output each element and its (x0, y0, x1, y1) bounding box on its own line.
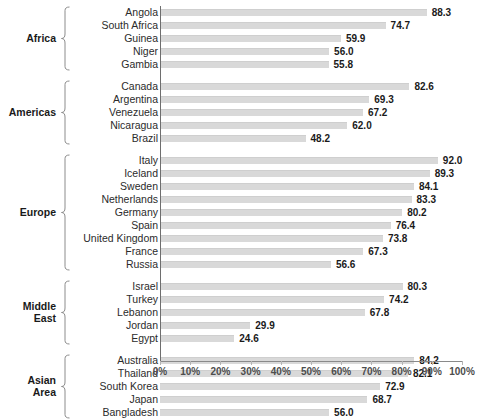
bar-row: South Korea72.9 (0, 380, 485, 393)
bar-value-label: 82.6 (414, 80, 433, 93)
bar-track: 74.2 (160, 293, 462, 306)
x-tick-label: 40% (271, 366, 291, 377)
bar (160, 183, 414, 190)
region-group: AsianAreaAustralia84.2Thailand82.1South … (0, 354, 485, 419)
region-group: EuropeItaly92.0Iceland89.3Sweden84.1Neth… (0, 154, 485, 271)
bar-row: Germany80.2 (0, 206, 485, 219)
bar (160, 170, 430, 177)
bar-track: 67.8 (160, 306, 462, 319)
x-tick-label: 70% (361, 366, 381, 377)
bar-track: 62.0 (160, 119, 462, 132)
category-label: Niger (74, 45, 158, 58)
y-axis-line (160, 6, 161, 361)
x-tick-mark (371, 361, 372, 365)
bar-row: Guinea59.9 (0, 32, 485, 45)
bar (160, 196, 412, 203)
bar (160, 209, 402, 216)
x-tick-label: 90% (422, 366, 442, 377)
bar (160, 335, 234, 342)
bar-row: Sweden84.1 (0, 180, 485, 193)
bar-row: Angola88.3 (0, 6, 485, 19)
bar-row: France67.3 (0, 245, 485, 258)
bar (160, 96, 369, 103)
x-tick-label: 50% (301, 366, 321, 377)
x-tick-mark (462, 361, 463, 365)
bar-value-label: 67.8 (370, 306, 389, 319)
category-label: Israel (74, 280, 158, 293)
bar-row: South Africa74.7 (0, 19, 485, 32)
category-label: Germany (74, 206, 158, 219)
bar-value-label: 67.3 (368, 245, 387, 258)
bar-track: 24.6 (160, 332, 462, 345)
bar-track: 56.0 (160, 406, 462, 419)
bar-row: United Kingdom73.8 (0, 232, 485, 245)
bar (160, 296, 384, 303)
bar (160, 109, 363, 116)
bar (160, 283, 403, 290)
bar-track: 82.6 (160, 80, 462, 93)
bar-track: 68.7 (160, 393, 462, 406)
category-label: Netherlands (74, 193, 158, 206)
bar-value-label: 76.4 (396, 219, 415, 232)
bar-value-label: 56.6 (336, 258, 355, 271)
x-tick-mark (281, 361, 282, 365)
category-label: Iceland (74, 167, 158, 180)
bar-value-label: 72.9 (385, 380, 404, 393)
bar (160, 9, 427, 16)
x-tick-mark (190, 361, 191, 365)
bar (160, 135, 306, 142)
x-tick-mark (432, 361, 433, 365)
bar-track: 84.1 (160, 180, 462, 193)
category-label: France (74, 245, 158, 258)
bar-row: Italy92.0 (0, 154, 485, 167)
bar-row: Gambia55.8 (0, 58, 485, 71)
bar-row: Nicaragua62.0 (0, 119, 485, 132)
bar-track: 88.3 (160, 6, 462, 19)
bar-track: 69.3 (160, 93, 462, 106)
bar (160, 22, 386, 29)
category-label: Venezuela (74, 106, 158, 119)
x-tick-label: 30% (241, 366, 261, 377)
bar-value-label: 68.7 (372, 393, 391, 406)
category-label: South Africa (74, 19, 158, 32)
bar-track: 48.2 (160, 132, 462, 145)
bar-track: 56.0 (160, 45, 462, 58)
bar-row: Egypt24.6 (0, 332, 485, 345)
bar-value-label: 62.0 (352, 119, 371, 132)
bar (160, 35, 341, 42)
x-tick-mark (251, 361, 252, 365)
bar (160, 309, 365, 316)
bar-value-label: 48.2 (311, 132, 330, 145)
category-label: Bangladesh (74, 406, 158, 419)
bar-value-label: 74.2 (389, 293, 408, 306)
bar (160, 322, 250, 329)
bar-value-label: 67.2 (368, 106, 387, 119)
bar-value-label: 74.7 (391, 19, 410, 32)
bar-track: 92.0 (160, 154, 462, 167)
bar (160, 157, 438, 164)
bar (160, 383, 380, 390)
x-tick-mark (311, 361, 312, 365)
category-label: Turkey (74, 293, 158, 306)
bar-value-label: 56.0 (334, 406, 353, 419)
bar-track: 55.8 (160, 58, 462, 71)
bar-row: Russia56.6 (0, 258, 485, 271)
bar-value-label: 59.9 (346, 32, 365, 45)
category-label: Spain (74, 219, 158, 232)
bar-value-label: 80.2 (407, 206, 426, 219)
category-label: Angola (74, 6, 158, 19)
bar-track: 76.4 (160, 219, 462, 232)
bar-row: Brazil48.2 (0, 132, 485, 145)
bar-track: 80.2 (160, 206, 462, 219)
bar-value-label: 55.8 (334, 58, 353, 71)
region-group: AfricaAngola88.3South Africa74.7Guinea59… (0, 6, 485, 71)
x-tick-mark (160, 361, 161, 365)
bar-row: Netherlands83.3 (0, 193, 485, 206)
category-label: Italy (74, 154, 158, 167)
bar-value-label: 88.3 (432, 6, 451, 19)
bar-value-label: 69.3 (374, 93, 393, 106)
x-tick-label: 80% (392, 366, 412, 377)
bar (160, 235, 383, 242)
bar-value-label: 92.0 (443, 154, 462, 167)
